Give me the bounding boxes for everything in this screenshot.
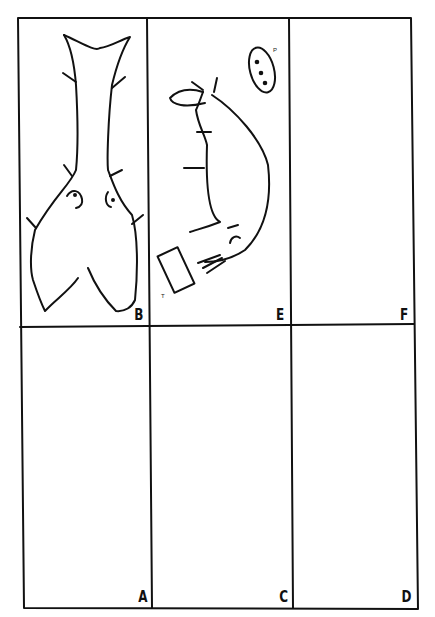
panel-e-drawing [158, 45, 280, 293]
figure-diagram [0, 0, 435, 617]
panel-e-label-p: P [273, 47, 277, 53]
panel-b-drawing [27, 35, 143, 311]
panel-label-c: C [279, 588, 288, 606]
panel-label-f: F [400, 306, 408, 324]
panel-label-a: A [138, 588, 147, 606]
panel-label-d: D [401, 588, 411, 606]
panel-label-e: E [276, 306, 284, 324]
panel-label-b: B [134, 306, 143, 324]
panel-e-label-t: T [161, 293, 165, 299]
